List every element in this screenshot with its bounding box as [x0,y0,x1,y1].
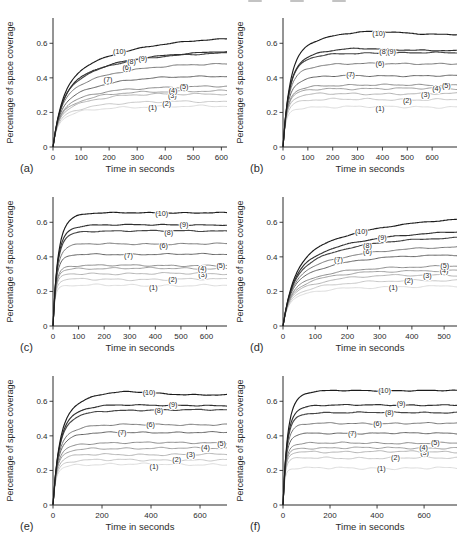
x-tick-label: 500 [174,332,188,341]
curve-2 [283,457,457,505]
chart-a: 010020030040050060000.20.40.6Time in sec… [0,0,230,179]
x-tick-label: 0 [51,332,56,341]
curve-1 [283,467,457,505]
x-axis-title: Time in seconds [336,342,405,353]
curve-label-5: (5) [440,261,449,270]
axes [283,18,457,147]
y-tick-label: 0.6 [266,397,278,406]
curve-4 [283,88,457,147]
y-tick-label: 0.6 [36,218,48,227]
subplot-d: 010020030040050000.20.40.6Time in second… [230,179,461,358]
axes [283,197,457,326]
y-tick-label: 0.2 [266,466,278,475]
subplot-f: 020040060000.20.40.6Time in secondsPerce… [230,358,461,538]
y-tick-label: 0 [273,322,278,331]
y-tick-label: 0.2 [36,287,48,296]
y-tick-label: 0.2 [266,287,278,296]
y-tick-label: 0.4 [266,253,278,262]
x-tick-label: 0 [51,153,56,162]
curve-label-1: (1) [149,283,158,292]
curve-label-8: (8) [363,241,372,250]
curve-label-1: (1) [148,103,157,112]
x-tick-label: 200 [326,153,340,162]
x-tick-label: 0 [281,153,286,162]
x-tick-label: 200 [102,153,116,162]
x-tick-label: 600 [425,153,439,162]
x-tick-label: 0 [281,332,286,341]
curve-label-1: (1) [150,462,159,471]
curve-label-7: (7) [118,428,127,437]
curve-label-10: (10) [113,47,126,56]
curve-2 [53,459,227,505]
x-tick-label: 600 [215,153,229,162]
curve-label-10: (10) [372,29,385,38]
y-tick-label: 0.4 [36,253,48,262]
curve-label-6: (6) [146,420,155,429]
x-tick-label: 400 [144,511,158,520]
curve-label-7: (7) [124,251,133,260]
curve-6 [283,423,457,506]
curve-label-7: (7) [104,75,113,84]
chart-d: 010020030040050000.20.40.6Time in second… [230,179,461,358]
subplot-b: 010020030040050060000.20.40.6Time in sec… [230,0,461,179]
chart-b: 010020030040050060000.20.40.6Time in sec… [230,0,461,179]
curve-label-7: (7) [346,70,355,79]
curve-label-9: (9) [387,47,396,56]
curve-label-10: (10) [143,388,156,397]
x-axis-title: Time in seconds [336,521,405,532]
curve-label-8: (8) [127,57,136,66]
subplot-a: 010020030040050060000.20.40.6Time in sec… [0,0,230,179]
y-tick-label: 0.6 [36,397,48,406]
curve-label-2: (2) [162,99,171,108]
curve-label-8: (8) [154,406,163,415]
y-tick-label: 0.4 [266,74,278,83]
curve-label-1: (1) [389,283,398,292]
y-axis-title: Percentage of space coverage [5,379,15,501]
x-tick-label: 300 [131,153,145,162]
curve-1 [53,463,227,505]
x-tick-label: 100 [309,332,323,341]
x-tick-label: 600 [193,511,207,520]
curve-8 [53,53,227,147]
curve-3 [53,273,227,327]
curve-label-9: (9) [180,220,189,229]
curve-2 [283,98,457,147]
curve-4 [283,447,457,505]
curve-label-9: (9) [169,400,178,409]
x-tick-label: 500 [187,153,201,162]
x-tick-label: 400 [159,153,173,162]
y-axis-title: Percentage of space coverage [5,200,15,322]
y-tick-label: 0.2 [36,466,48,475]
curve-label-10: (10) [155,209,168,218]
x-tick-label: 200 [323,511,337,520]
x-axis-title: Time in seconds [106,521,175,532]
x-tick-label: 400 [405,332,419,341]
curve-label-3: (3) [186,450,195,459]
axes [53,197,227,326]
y-tick-label: 0 [43,143,48,152]
curve-9 [283,405,457,506]
x-tick-label: 200 [97,332,111,341]
y-axis-title: Percentage of space coverage [235,200,245,322]
curve-label-4: (4) [169,86,178,95]
panel-letter: (c) [20,341,33,353]
panel-letter: (e) [20,520,33,532]
x-axis-title: Time in seconds [106,342,175,353]
subplot-e: 020040060000.20.40.6Time in secondsPerce… [0,358,230,538]
curve-label-5: (5) [217,439,226,448]
y-tick-label: 0.6 [36,39,48,48]
curve-label-4: (4) [201,443,210,452]
y-tick-label: 0.6 [266,39,278,48]
chart-f: 020040060000.20.40.6Time in secondsPerce… [230,358,461,538]
curve-3 [53,93,227,147]
x-axis-title: Time in seconds [336,163,405,174]
curve-label-8: (8) [385,408,394,417]
x-tick-label: 200 [95,511,109,520]
curve-1 [53,284,227,326]
x-tick-label: 100 [74,153,88,162]
curve-label-3: (3) [423,271,432,280]
x-tick-label: 500 [437,332,451,341]
curve-label-8: (8) [164,228,173,237]
y-tick-label: 0 [43,322,48,331]
figure-page: 010020030040050060000.20.40.6Time in sec… [0,0,461,538]
